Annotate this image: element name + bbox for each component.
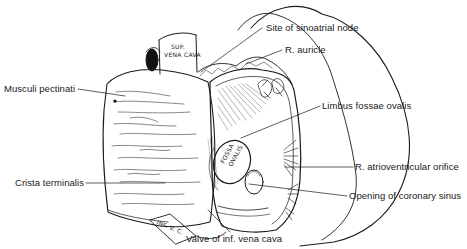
heart-right-atrium-diagram: SUP. VENA CAVA FOSSA OVALIS INF. V. C. S… xyxy=(0,0,467,249)
sup-vena-cava-label-1: SUP. xyxy=(171,43,185,50)
label-opening-coronary-sinus: Opening of coronary sinus xyxy=(349,190,461,201)
label-valve-inf-vena-cava: Valve of inf. vena cava xyxy=(186,233,282,244)
label-musculi-pectinati: Musculi pectinati xyxy=(4,83,75,94)
label-crista-terminalis: Crista terminalis xyxy=(15,177,84,188)
label-r-atrioventricular-orifice: R. atrioventricular orifice xyxy=(355,161,459,172)
leader-site-sinoatrial-node xyxy=(201,28,262,72)
leader-musculi-pectinati xyxy=(78,89,125,96)
heart-illustration: SUP. VENA CAVA FOSSA OVALIS INF. V. C. xyxy=(0,0,467,249)
sup-vena-cava-label-2: VENA CAVA xyxy=(164,51,201,58)
coronary-sinus-opening xyxy=(245,170,263,194)
leader-lines xyxy=(78,28,353,232)
reflected-atrial-wall xyxy=(103,70,215,227)
heart-outline xyxy=(251,6,409,246)
label-site-sinoatrial-node: Site of sinoatrial node xyxy=(266,22,359,33)
label-r-auricle: R. auricle xyxy=(285,44,326,55)
label-limbus-fossae-ovalis: Limbus fossae ovalis xyxy=(322,100,411,111)
atrial-cavity xyxy=(198,57,301,232)
inf-vena-cava-label: INF. V. C. xyxy=(156,218,185,235)
leader-valve-inf-vena-cava xyxy=(208,210,230,232)
